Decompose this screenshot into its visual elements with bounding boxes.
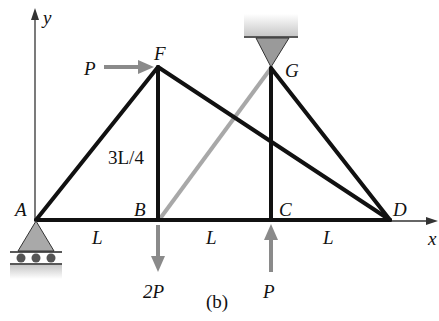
roller-support-a: [10, 221, 62, 279]
truss-diagram: y x P 2P: [0, 0, 439, 321]
dimension-height: 3L/4: [108, 147, 144, 168]
arrow-down-icon: [151, 256, 165, 272]
figure-caption: (b): [206, 291, 228, 313]
joint-label-c: C: [279, 199, 292, 220]
x-axis-label: x: [427, 228, 437, 249]
load-label-f: P: [83, 58, 96, 79]
member-bg: [159, 68, 271, 220]
arrow-up-icon: [264, 224, 278, 240]
y-axis: [31, 8, 39, 220]
joint-label-b: B: [134, 199, 146, 220]
joint-label-g: G: [285, 60, 299, 81]
load-arrow-f: [104, 60, 154, 74]
joint-label-a: A: [13, 199, 27, 220]
dimension-cd: L: [322, 227, 334, 248]
load-label-c: P: [262, 281, 275, 302]
member-fd: [158, 67, 390, 220]
load-arrow-c: [264, 224, 278, 272]
member-af: [36, 67, 158, 220]
joint-label-f: F: [153, 43, 166, 64]
load-label-b: 2P: [143, 281, 165, 302]
dimension-ab: L: [91, 227, 103, 248]
y-axis-arrow-icon: [31, 8, 39, 20]
joint-label-d: D: [392, 199, 407, 220]
member-gd: [271, 68, 390, 220]
load-arrow-b: [151, 225, 165, 272]
x-axis-arrow-icon: [426, 217, 438, 225]
dimension-bc: L: [205, 227, 217, 248]
y-axis-label: y: [41, 7, 52, 28]
